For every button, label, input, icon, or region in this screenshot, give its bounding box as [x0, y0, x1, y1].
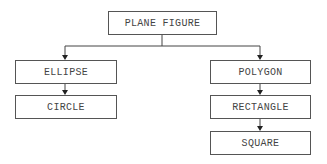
node-rectangle: RECTANGLE [210, 95, 311, 119]
node-label: CIRCLE [47, 102, 85, 113]
node-polygon: POLYGON [210, 60, 311, 84]
node-label: ELLIPSE [44, 67, 88, 78]
node-plane-figure: PLANE FIGURE [108, 11, 217, 35]
node-label: POLYGON [238, 67, 282, 78]
node-label: SQUARE [242, 138, 280, 149]
node-square: SQUARE [210, 131, 311, 155]
node-label: PLANE FIGURE [125, 18, 201, 29]
node-circle: CIRCLE [15, 95, 117, 119]
node-ellipse: ELLIPSE [15, 60, 117, 84]
node-label: RECTANGLE [232, 102, 289, 113]
